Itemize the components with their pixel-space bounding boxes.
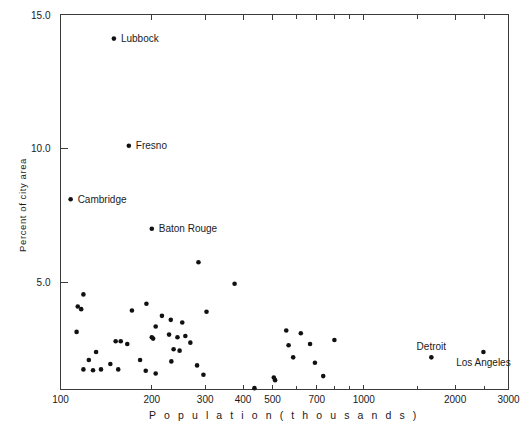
data-point — [112, 36, 117, 41]
x-tick-label: 500 — [264, 394, 281, 405]
data-point — [481, 350, 486, 355]
data-point — [81, 292, 86, 297]
data-point — [196, 260, 201, 265]
data-point — [68, 197, 73, 202]
x-axis-ticks: 100200300400500700100020003000 — [52, 15, 520, 405]
data-point — [332, 338, 337, 343]
data-point — [171, 347, 176, 352]
data-point — [125, 342, 130, 347]
plot-frame — [61, 15, 509, 390]
data-point — [116, 367, 121, 372]
point-label-los-angeles: Los Angeles — [456, 357, 511, 368]
x-tick-label: 2000 — [444, 394, 467, 405]
data-point — [167, 332, 172, 337]
data-point — [127, 143, 132, 148]
data-point — [118, 339, 123, 344]
data-point — [143, 368, 148, 373]
data-point — [180, 320, 185, 325]
data-point — [81, 367, 86, 372]
data-point — [291, 355, 296, 360]
data-point — [321, 374, 326, 379]
x-tick-label: 3000 — [497, 394, 520, 405]
data-point — [113, 339, 118, 344]
data-point — [232, 281, 237, 286]
y-tick-label: 10.0 — [31, 143, 51, 154]
chart-canvas: 100200300400500700100020003000 5.010.015… — [0, 0, 531, 435]
data-points — [68, 36, 485, 390]
x-tick-label: 400 — [235, 394, 252, 405]
data-point — [252, 386, 257, 391]
point-label-fresno: Fresno — [136, 140, 168, 151]
data-point — [183, 334, 188, 339]
data-point — [188, 340, 193, 345]
x-tick-label: 200 — [143, 394, 160, 405]
x-tick-label: 700 — [308, 394, 325, 405]
data-point — [299, 331, 304, 336]
data-point — [87, 358, 92, 363]
data-point — [168, 318, 173, 323]
x-tick-label: 1000 — [353, 394, 376, 405]
x-tick-label: 100 — [52, 394, 69, 405]
data-point — [201, 372, 206, 377]
point-annotations: LubbockFresnoCambridgeBaton RougeDetroit… — [78, 33, 511, 368]
y-axis-ticks: 5.010.015.0 — [31, 10, 67, 289]
y-axis-title: Percent of city area — [17, 158, 28, 252]
data-point — [284, 328, 289, 333]
data-point — [204, 310, 209, 315]
data-point — [108, 362, 113, 367]
x-axis-title: P o p u l a t i o n ( t h o u s a n d s … — [149, 409, 419, 421]
point-label-cambridge: Cambridge — [78, 194, 127, 205]
data-point — [153, 324, 158, 329]
y-tick-label: 5.0 — [37, 277, 51, 288]
data-point — [150, 226, 155, 231]
scatter-plot-figure: 100200300400500700100020003000 5.010.015… — [0, 0, 531, 435]
data-point — [177, 348, 182, 353]
data-point — [286, 343, 291, 348]
data-point — [175, 335, 180, 340]
data-point — [272, 375, 277, 380]
point-label-baton-rouge: Baton Rouge — [159, 223, 218, 234]
data-point — [91, 368, 96, 373]
data-point — [130, 308, 135, 313]
data-point — [94, 350, 99, 355]
data-point — [429, 355, 434, 360]
data-point — [74, 330, 79, 335]
data-point — [144, 301, 149, 306]
data-point — [160, 314, 165, 319]
data-point — [313, 360, 318, 365]
data-point — [153, 371, 158, 376]
data-point — [151, 336, 156, 341]
data-point — [79, 307, 84, 312]
data-point — [99, 367, 104, 372]
data-point — [138, 358, 143, 363]
point-label-detroit: Detroit — [417, 341, 447, 352]
data-point — [308, 342, 313, 347]
data-point — [169, 359, 174, 364]
data-point — [195, 363, 200, 368]
y-tick-label: 15.0 — [31, 10, 51, 21]
point-label-lubbock: Lubbock — [121, 33, 160, 44]
x-tick-label: 300 — [197, 394, 214, 405]
